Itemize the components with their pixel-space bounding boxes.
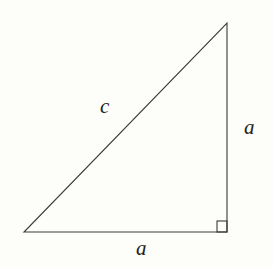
horizontal-leg-label: a <box>136 236 147 260</box>
triangle-outline <box>24 23 227 232</box>
hypotenuse-label: c <box>100 94 110 118</box>
vertical-leg-label: a <box>244 115 255 139</box>
right-angle-marker <box>217 221 227 232</box>
right-triangle-diagram: c a a <box>0 0 274 267</box>
